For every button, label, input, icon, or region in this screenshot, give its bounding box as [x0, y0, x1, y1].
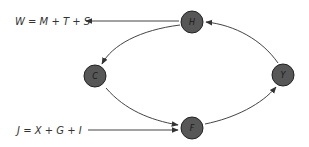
node-c: C: [84, 65, 106, 87]
edge-h-to-c: [102, 25, 180, 64]
leakage-equation: W = M + T + S: [15, 16, 91, 27]
node-y: Y: [272, 64, 294, 86]
node-h-label: H: [189, 18, 195, 27]
edge-y-to-h: [206, 22, 278, 63]
injection-equation: J = X + G + I: [15, 125, 82, 136]
node-f-label: F: [190, 124, 195, 133]
edge-c-to-f: [106, 88, 178, 125]
node-h: H: [181, 11, 203, 33]
edge-f-to-y: [205, 87, 276, 124]
node-f: F: [181, 117, 203, 139]
circular-flow-diagram: W = M + T + S J = X + G + I H C F Y: [0, 0, 309, 147]
node-c-label: C: [92, 72, 98, 81]
